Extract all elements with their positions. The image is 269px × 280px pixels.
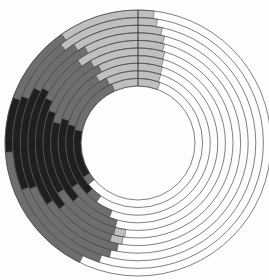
- radial-ring-chart: [0, 0, 269, 280]
- chart-container: [0, 0, 269, 280]
- ring-outline-circle: [81, 86, 195, 200]
